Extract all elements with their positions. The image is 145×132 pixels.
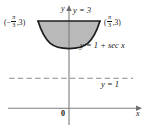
label-y-equals-1: y = 1 — [101, 80, 119, 89]
y-axis-arrowhead — [66, 5, 71, 11]
label-left-endpoint: (−π3,3) — [4, 14, 25, 28]
right-close-paren: ) — [118, 18, 121, 27]
label-y-equals-3: y = 3 — [73, 6, 91, 15]
origin-label: 0 — [61, 110, 65, 118]
x-axis-label: x — [136, 110, 140, 118]
label-right-endpoint: (π3,3) — [104, 14, 121, 28]
label-curve-equation: y = 1 + sec x — [80, 41, 125, 50]
left-fraction-denominator: 3 — [11, 22, 16, 29]
math-figure: y x 0 y = 3 y = 1 + sec x y = 1 (−π3,3) … — [0, 0, 145, 132]
left-close-paren: ) — [23, 18, 26, 27]
right-pi-over-3-fraction: π3 — [107, 14, 112, 28]
left-pi-over-3-fraction: π3 — [11, 14, 16, 28]
right-fraction-denominator: 3 — [107, 22, 112, 29]
y-axis-label: y — [61, 5, 65, 13]
left-minus-sign: − — [7, 18, 11, 27]
